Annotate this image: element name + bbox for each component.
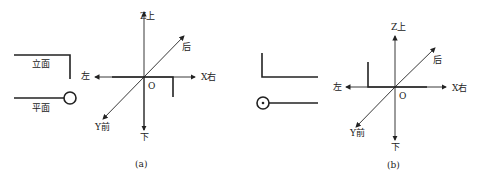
plan-label: 平面 [32, 104, 50, 113]
origin-label: O [148, 82, 155, 91]
axis-label-z-up: Z上 [140, 12, 155, 21]
figure-b-axes [346, 36, 446, 140]
axis-label-down: 下 [391, 143, 400, 152]
diagram-canvas [0, 0, 482, 182]
caption-b: (b) [387, 161, 400, 170]
figure-b-elevation-shape [262, 53, 318, 77]
elevation-label: 立面 [32, 60, 50, 69]
axis-label-x-right: X右 [201, 73, 216, 82]
axis-label-z-up: Z上 [391, 23, 406, 32]
axis-label-y-front: Y前 [95, 123, 110, 132]
figure-b-plan-dot [262, 102, 265, 105]
axis-label-down: 下 [140, 133, 149, 142]
figure-b-profile-shape [368, 62, 427, 87]
axis-label-left: 左 [81, 72, 90, 81]
caption-a: (a) [135, 160, 147, 169]
axis-label-back: 后 [182, 43, 191, 52]
origin-label: O [399, 92, 406, 101]
figure-a-profile-shape [112, 77, 173, 97]
figure-b-plan-shape [257, 97, 318, 109]
axis-label-x-right: X右 [452, 84, 467, 93]
axis-label-back: 后 [433, 56, 442, 65]
figure-a-axes [95, 12, 195, 130]
axis-label-y-front: Y前 [350, 129, 365, 138]
axis-label-left: 左 [333, 83, 342, 92]
